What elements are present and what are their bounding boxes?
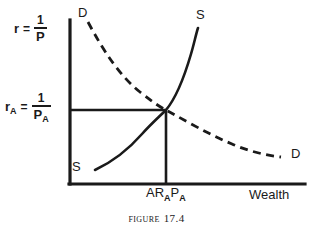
x-axis-tick-first-term: AR [146,186,164,199]
figure-caption: Figure17.4 [0,212,313,224]
x-axis-title: Wealth [249,188,289,201]
figure-container: r = 1 P rA = 1 PA D D S S ARAPA Wealth F… [0,0,313,233]
y-axis-level-label: rA = 1 PA [5,92,51,121]
y-axis-level-denominator-group: PA [32,107,51,121]
figure-caption-number: 17.4 [164,212,185,224]
x-axis-tick-second-term: P [171,186,180,199]
y-axis-top-numerator: 1 [35,14,46,27]
supply-curve-label-top: S [196,8,205,21]
figure-caption-label: Figure [128,211,159,225]
y-axis-top-variable: r [14,22,19,35]
y-axis-level-denominator: P [34,108,43,121]
demand-curve-path [88,22,281,157]
supply-curve-label-bottom: S [72,160,81,173]
y-axis-level-equals: = [21,101,28,113]
supply-curve-path [95,28,198,170]
y-axis-level-fraction: 1 PA [32,92,51,121]
y-axis-top-denominator: P [34,29,47,43]
y-axis-top-equals: = [23,23,30,35]
x-axis-tick-label: ARAPA [146,186,186,199]
y-axis-top-fraction: 1 P [34,14,47,43]
y-axis-level-variable-group: rA [5,100,17,113]
y-axis-top-label: r = 1 P [14,14,47,43]
x-axis-tick-first-subscript: A [164,194,171,203]
y-axis-level-variable-subscript: A [10,107,17,116]
x-axis-tick-second-subscript: A [179,194,186,203]
demand-curve-label-right: D [291,147,300,160]
y-axis-level-denominator-subscript: A [42,115,49,124]
y-axis-level-numerator: 1 [36,92,47,105]
demand-curve-label-top: D [78,6,87,19]
